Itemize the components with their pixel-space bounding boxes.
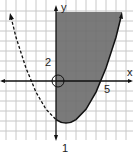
x-tick-label: 5 xyxy=(104,83,110,95)
parabola-left-arrow-icon xyxy=(9,13,14,20)
y-axis-up-arrow-icon xyxy=(54,5,58,11)
shaded-region xyxy=(56,12,122,123)
x-axis-label: x xyxy=(127,66,133,78)
y-tick-label: 2 xyxy=(45,56,51,68)
y-axis-label: y xyxy=(61,1,67,13)
graph-canvas: y x 2 5 1 xyxy=(0,0,133,153)
y-axis-down-arrow-icon xyxy=(54,135,58,141)
x-axis-left-arrow-icon xyxy=(0,79,5,83)
parabola-left-branch xyxy=(11,17,56,120)
x-axis-right-arrow-icon xyxy=(128,79,133,83)
bottom-caption: 1 xyxy=(62,142,68,153)
